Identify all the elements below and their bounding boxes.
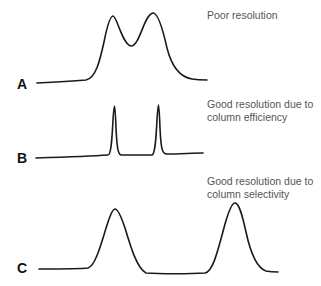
trace-b (36, 105, 203, 158)
caption-c-line-1: Good resolution due to (207, 175, 313, 188)
caption-b-line-1: Good resolution due to (207, 98, 313, 111)
caption-c-line-2: column selectivity (207, 188, 313, 201)
caption-a: Poor resolution (207, 9, 278, 22)
resolution-diagram: A B C Poor resolution Good resolution du… (0, 0, 321, 286)
caption-b-line-2: column efficiency (207, 111, 313, 124)
panel-label-a: A (17, 77, 27, 91)
panel-label-c: C (17, 261, 27, 275)
caption-c: Good resolution due to column selectivit… (207, 175, 313, 201)
trace-c (39, 203, 278, 274)
caption-a-line-1: Poor resolution (207, 9, 278, 22)
trace-a (37, 13, 207, 83)
chromatogram-traces (0, 0, 321, 286)
panel-label-b: B (17, 151, 27, 165)
caption-b: Good resolution due to column efficiency (207, 98, 313, 124)
